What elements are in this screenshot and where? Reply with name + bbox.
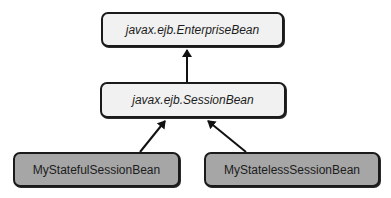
edge-stateless-to-session [208, 121, 246, 152]
node-label: MyStatelessSessionBean [224, 163, 360, 177]
node-label: javax.ejb.EnterpriseBean [126, 23, 259, 37]
node-stateless-session-bean: MyStatelessSessionBean [204, 152, 380, 187]
diagram-canvas: javax.ejb.EnterpriseBean javax.ejb.Sessi… [0, 0, 391, 198]
node-session-bean: javax.ejb.SessionBean [100, 82, 286, 118]
node-label: MyStatefulSessionBean [33, 163, 160, 177]
node-enterprise-bean: javax.ejb.EnterpriseBean [101, 12, 284, 47]
edge-stateful-to-session [140, 121, 165, 152]
node-label: javax.ejb.SessionBean [132, 93, 253, 107]
node-stateful-session-bean: MyStatefulSessionBean [13, 152, 180, 187]
